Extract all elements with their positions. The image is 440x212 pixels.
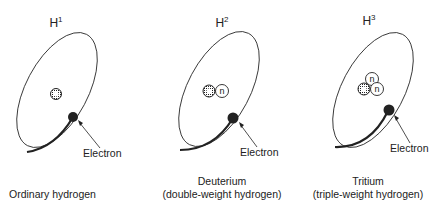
panel-3-caption: Tritium <box>352 175 384 187</box>
panel-3-neutron-bottom-label: n <box>374 83 379 95</box>
panel-3-nucleus-proton <box>358 83 370 95</box>
panel-3-isotope-symbol: H3 <box>362 12 375 27</box>
panel-3-electron-arrow <box>395 117 410 143</box>
panel-1-caption: Ordinary hydrogen <box>9 188 96 200</box>
panel-2-electron-arrow <box>240 124 257 147</box>
panel-2-electron <box>228 113 239 124</box>
mass-number: 2 <box>224 15 228 24</box>
panel-1-isotope-symbol: H1 <box>49 14 62 29</box>
mass-number: 1 <box>58 15 62 24</box>
panel-2-neutron-label: n <box>219 85 224 97</box>
panel-2-nucleus-proton <box>203 85 215 97</box>
hydrogen-isotopes-diagram: H1 H2 H3 n n n Electron Electron Electro… <box>0 0 440 212</box>
panel-2-electron-label: Electron <box>240 146 279 158</box>
panel-3-electron-label: Electron <box>390 142 429 154</box>
symbol-text: H <box>49 16 58 30</box>
panel-3-electron <box>384 105 395 116</box>
mass-number: 3 <box>371 13 375 22</box>
panel-3-subtitle: (triple-weight hydrogen) <box>313 188 423 200</box>
panel-1-electron-arrow <box>79 122 100 148</box>
panel-2-caption: Deuterium <box>198 175 246 187</box>
symbol-text: H <box>215 16 224 30</box>
panel-1-electron <box>68 112 78 122</box>
panel-1-nucleus-proton <box>51 89 62 100</box>
symbol-text: H <box>362 14 371 28</box>
panel-2-subtitle: (double-weight hydrogen) <box>162 188 281 200</box>
panel-1-electron-label: Electron <box>83 147 122 159</box>
panel-2-isotope-symbol: H2 <box>215 14 228 29</box>
